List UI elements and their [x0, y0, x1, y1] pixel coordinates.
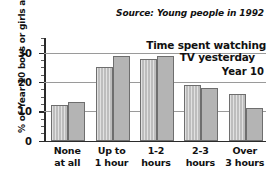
bar-boys-over-3-hours — [229, 94, 246, 141]
y-tick-30: 30 — [39, 53, 44, 55]
y-tick-10: 10 — [39, 111, 44, 113]
y-tick-label-10: 10 — [18, 106, 32, 117]
y-tick-minor — [41, 67, 44, 68]
bar-boys-1-2-hours — [140, 59, 157, 141]
bar-girls-1-2-hours — [157, 56, 174, 141]
x-axis-label-line-1: hours — [178, 157, 222, 169]
y-tick-minor — [41, 38, 44, 39]
y-tick-label-20: 20 — [18, 76, 32, 87]
chart-title: Time spent watching TV yesterday — [116, 39, 266, 63]
x-axis-label-line-1: hours — [134, 157, 178, 169]
x-axis-label-0: Noneat all — [45, 145, 89, 168]
x-axis-label-line-1: at all — [45, 157, 89, 169]
y-tick-minor — [41, 104, 44, 105]
x-axis-label-3: 2-3hours — [178, 145, 222, 168]
bar-boys-up-to-1-hour — [96, 67, 113, 140]
bar-girls-2-3-hours — [201, 88, 218, 141]
bar-girls-over-3-hours — [246, 108, 263, 140]
bar-group — [51, 38, 85, 141]
chart-figure: Source: Young people in 1992 % of Year 1… — [0, 0, 270, 176]
x-axis-label-4: Over3 hours — [223, 145, 267, 168]
x-axis-label-line-1: 1 hour — [89, 157, 133, 169]
bar-boys-2-3-hours — [184, 85, 201, 141]
y-tick-minor — [41, 60, 44, 61]
x-axis-line — [44, 141, 266, 143]
chart-title-line-1: Time spent watching — [146, 39, 266, 51]
y-tick-minor — [41, 45, 44, 46]
y-tick-minor — [41, 119, 44, 120]
y-tick-label-0: 0 — [25, 135, 32, 146]
y-tick-minor — [41, 89, 44, 90]
x-axis-label-2: 1-2hours — [134, 145, 178, 168]
x-axis-label-line-0: 2-3 — [178, 145, 222, 157]
y-tick-minor — [41, 97, 44, 98]
legend-note: Year 10 — [222, 66, 264, 77]
x-axis-label-line-1: 3 hours — [223, 157, 267, 169]
bar-girls-up-to-1-hour — [113, 56, 130, 141]
bar-boys-none-at-all — [51, 105, 68, 140]
bar-girls-none-at-all — [68, 102, 85, 140]
x-axis-label-line-0: Over — [223, 145, 267, 157]
y-tick-0: 0 — [39, 141, 44, 143]
x-axis-labels: Noneat allUp to1 hour1-2hours2-3hoursOve… — [45, 145, 266, 175]
source-note: Source: Young people in 1992 — [0, 8, 264, 18]
y-tick-minor — [41, 133, 44, 134]
x-axis-label-1: Up to1 hour — [89, 145, 133, 168]
y-tick-minor — [41, 75, 44, 76]
y-tick-minor — [41, 126, 44, 127]
y-tick-20: 20 — [39, 82, 44, 84]
x-axis-label-line-0: None — [45, 145, 89, 157]
chart-title-line-2: TV yesterday — [116, 51, 266, 63]
x-axis-label-line-0: 1-2 — [134, 145, 178, 157]
y-tick-label-30: 30 — [18, 47, 32, 58]
x-axis-label-line-0: Up to — [89, 145, 133, 157]
